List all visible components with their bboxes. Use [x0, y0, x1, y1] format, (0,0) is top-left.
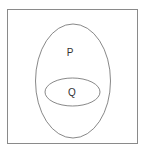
universal-set-rectangle: [8, 10, 138, 144]
set-p-ellipse: [36, 24, 111, 138]
set-p-label: P: [67, 47, 74, 58]
venn-diagram: P Q: [0, 0, 146, 150]
set-q-label: Q: [68, 87, 76, 98]
